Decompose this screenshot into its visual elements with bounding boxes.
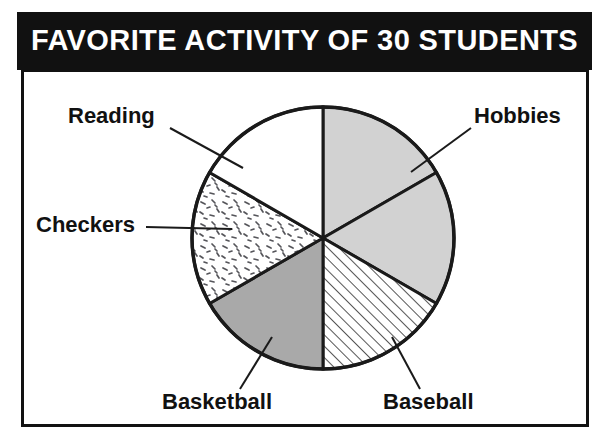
pie-label-reading: Reading: [68, 105, 155, 127]
pie-label-hobbies: Hobbies: [474, 105, 561, 127]
pie-label-basketball: Basketball: [162, 391, 272, 413]
pie-label-baseball: Baseball: [383, 391, 474, 413]
pie-chart-poster: FAVORITE ACTIVITY OF 30 STUDENTS: [0, 0, 607, 443]
page-title: FAVORITE ACTIVITY OF 30 STUDENTS: [31, 26, 578, 57]
title-banner: FAVORITE ACTIVITY OF 30 STUDENTS: [17, 12, 592, 70]
pie-label-checkers: Checkers: [36, 214, 135, 236]
